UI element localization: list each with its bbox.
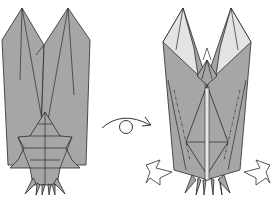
model-after	[163, 8, 251, 195]
push-arrow-left	[146, 160, 172, 185]
turn-over-icon	[102, 117, 151, 134]
midline-strip	[205, 88, 209, 180]
model-before	[2, 8, 90, 195]
push-arrow-right	[244, 160, 270, 185]
origami-diagram	[0, 0, 272, 203]
